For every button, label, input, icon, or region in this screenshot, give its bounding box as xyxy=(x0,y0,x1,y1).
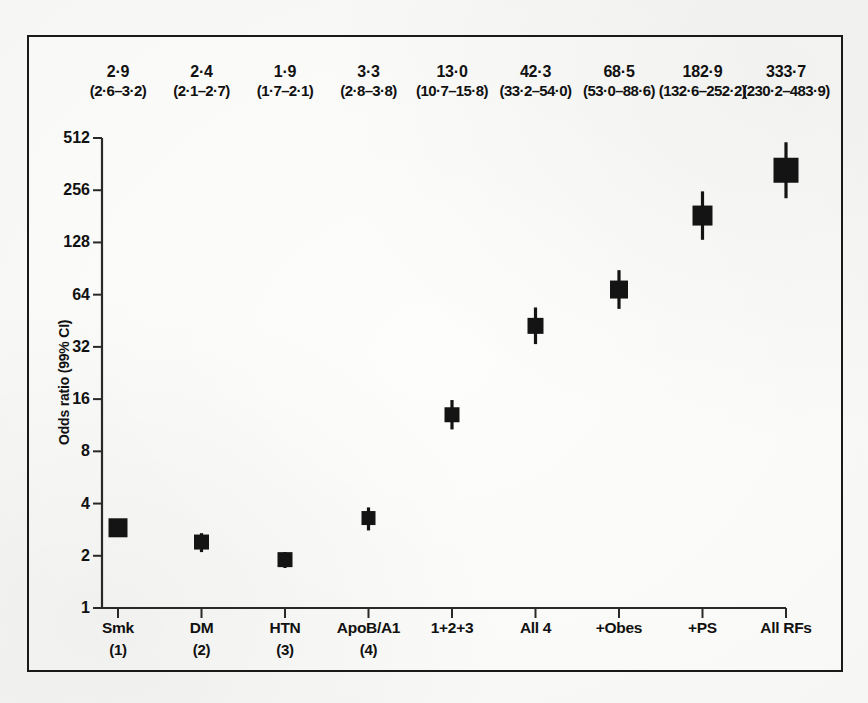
risk-factor-name: HTN xyxy=(270,619,301,636)
confidence-interval-value: (2·8–3·8) xyxy=(340,82,396,100)
odds-ratio-value: 1·9 xyxy=(257,63,313,82)
risk-factor-name: All 4 xyxy=(520,619,551,636)
risk-factor-name: +PS xyxy=(688,619,717,636)
value-annotation: 182·9(132·6–252·2) xyxy=(659,63,746,100)
risk-factor-name: Smk xyxy=(102,619,134,636)
risk-factor-name: All RFs xyxy=(760,619,811,636)
x-tick-label: All 4 xyxy=(520,617,551,639)
odds-ratio-value: 2·9 xyxy=(90,63,146,82)
y-tick-label: 8 xyxy=(48,442,90,460)
value-annotation: 13·0(10·7–15·8) xyxy=(416,63,488,100)
odds-ratio-value: 42·3 xyxy=(500,63,572,82)
y-tick-label: 1 xyxy=(48,599,90,617)
figure-canvas: 2·9(2·6–3·2)2·4(2·1–2·7)1·9(1·7–2·1)3·3(… xyxy=(0,0,868,703)
risk-factor-index: (1) xyxy=(102,639,134,661)
confidence-interval-value: (132·6–252·2) xyxy=(659,82,746,100)
odds-ratio-value: 333·7 xyxy=(742,63,829,82)
y-tick-label: 4 xyxy=(48,495,90,513)
risk-factor-name: +Obes xyxy=(596,619,642,636)
risk-factor-index: (4) xyxy=(337,639,400,661)
y-tick-label: 16 xyxy=(48,390,90,408)
figure-frame xyxy=(27,35,843,672)
confidence-interval-value: (33·2–54·0) xyxy=(500,82,572,100)
odds-ratio-value: 3·3 xyxy=(340,63,396,82)
x-tick-label: DM(2) xyxy=(190,617,214,661)
risk-factor-name: 1+2+3 xyxy=(431,619,473,636)
x-tick-label: +Obes xyxy=(596,617,642,639)
confidence-interval-value: (53·0–88·6) xyxy=(583,82,655,100)
value-annotation: 3·3(2·8–3·8) xyxy=(340,63,396,100)
confidence-interval-value: (230·2–483·9) xyxy=(742,82,829,100)
odds-ratio-value: 2·4 xyxy=(173,63,229,82)
value-annotation: 1·9(1·7–2·1) xyxy=(257,63,313,100)
confidence-interval-value: (2·6–3·2) xyxy=(90,82,146,100)
x-tick-label: 1+2+3 xyxy=(431,617,473,639)
risk-factor-name: DM xyxy=(190,619,214,636)
value-annotation: 2·4(2·1–2·7) xyxy=(173,63,229,100)
risk-factor-index: (3) xyxy=(270,639,301,661)
x-tick-label: +PS xyxy=(688,617,717,639)
value-annotation: 42·3(33·2–54·0) xyxy=(500,63,572,100)
value-annotation: 2·9(2·6–3·2) xyxy=(90,63,146,100)
value-annotation: 333·7(230·2–483·9) xyxy=(742,63,829,100)
x-tick-label: HTN(3) xyxy=(270,617,301,661)
confidence-interval-value: (1·7–2·1) xyxy=(257,82,313,100)
x-tick-label: All RFs xyxy=(760,617,811,639)
risk-factor-index: (2) xyxy=(190,639,214,661)
y-tick-label: 512 xyxy=(48,129,90,147)
y-tick-label: 64 xyxy=(48,286,90,304)
odds-ratio-value: 13·0 xyxy=(416,63,488,82)
x-tick-label: Smk(1) xyxy=(102,617,134,661)
value-annotation: 68·5(53·0–88·6) xyxy=(583,63,655,100)
confidence-interval-value: (10·7–15·8) xyxy=(416,82,488,100)
y-tick-label: 128 xyxy=(48,233,90,251)
odds-ratio-value: 68·5 xyxy=(583,63,655,82)
x-tick-label: ApoB/A1(4) xyxy=(337,617,400,661)
confidence-interval-value: (2·1–2·7) xyxy=(173,82,229,100)
odds-ratio-value: 182·9 xyxy=(659,63,746,82)
y-tick-label: 32 xyxy=(48,338,90,356)
risk-factor-name: ApoB/A1 xyxy=(337,619,400,636)
y-tick-label: 2 xyxy=(48,547,90,565)
y-tick-label: 256 xyxy=(48,181,90,199)
